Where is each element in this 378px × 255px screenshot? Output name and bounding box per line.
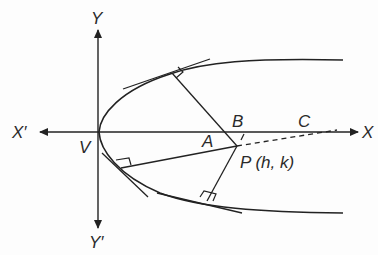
tangent-bottom (157, 193, 242, 213)
label-v: V (79, 138, 92, 157)
right-angle-left (116, 158, 131, 165)
tangent-left (102, 153, 148, 197)
label-a: A (201, 132, 213, 151)
diagram-canvas: Y Y′ X′ X V A B C P (h, k) (0, 0, 378, 255)
label-y-prime: Y′ (89, 233, 104, 252)
label-p: P (h, k) (240, 153, 294, 172)
tangent-top (123, 59, 210, 89)
label-x-prime: X′ (11, 123, 27, 142)
dashed-tick-b (241, 134, 244, 140)
parabola-curve (99, 60, 343, 213)
label-b: B (232, 112, 243, 131)
label-c: C (298, 112, 311, 131)
label-x: X (361, 123, 374, 142)
normal-left (121, 146, 237, 168)
parabola-diagram: Y Y′ X′ X V A B C P (h, k) (0, 0, 378, 255)
label-y: Y (91, 9, 104, 28)
